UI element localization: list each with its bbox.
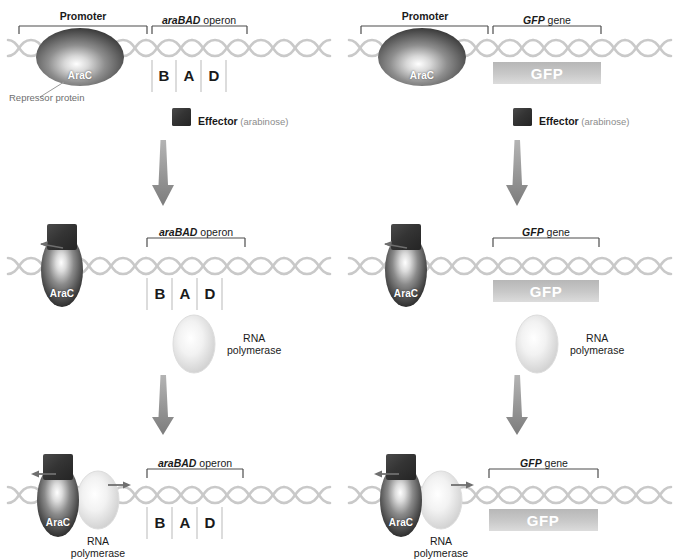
- rna-polymerase-caption: RNA polymerase: [570, 332, 624, 357]
- gene-letter-D: D: [205, 515, 216, 530]
- rna-polymerase-caption: RNA polymerase: [71, 535, 125, 560]
- gene-letter-A: A: [180, 515, 191, 530]
- gfp-bar-label: GFP: [530, 283, 562, 300]
- operon-label-rest: operon: [196, 457, 232, 469]
- rna-polymerase: [173, 315, 215, 373]
- operon-label-rest: operon: [200, 14, 236, 26]
- effector-swatch: [513, 108, 532, 126]
- promoter-label: Promoter: [60, 11, 107, 22]
- operon-label: araBAD operon: [158, 454, 232, 470]
- effector-swatch: [172, 108, 191, 126]
- gene-letter-A: A: [180, 286, 191, 301]
- rnap-caption-line2: polymerase: [570, 344, 624, 356]
- row2-right-graphics: [341, 212, 681, 377]
- operon-label-italic: araBAD: [158, 457, 197, 469]
- row1-right-graphics: [341, 0, 681, 145]
- gene-label-rest: gene: [545, 14, 571, 26]
- rna-polymerase: [516, 315, 558, 373]
- transition-arrows-1: [0, 140, 681, 210]
- panel-left-row3: araBAD operon AraC RNA polymerase B A D: [0, 443, 340, 558]
- promoter-label: Promoter: [402, 11, 449, 22]
- gfp-bar-label: GFP: [527, 512, 559, 529]
- arac-label: AraC: [394, 288, 418, 299]
- bracket-gene-right: [493, 26, 601, 34]
- gene-label-rest: gene: [542, 457, 568, 469]
- bracket-operon-left: [147, 469, 243, 478]
- gene-label-italic: GFP: [523, 14, 545, 26]
- effector-caption-rest: (arabinose): [579, 116, 630, 127]
- panel-right-row1: Promoter GFP gene AraC GFP Effector (ara…: [341, 0, 681, 145]
- rnap-caption-line1: RNA: [227, 332, 281, 344]
- bracket-operon-left: [147, 238, 245, 247]
- arac-label: AraC: [46, 517, 70, 528]
- panel-left-row2: araBAD operon AraC B A D RNA polymerase: [0, 212, 340, 377]
- gene-label-italic: GFP: [520, 457, 542, 469]
- gene-letter-B: B: [155, 286, 166, 301]
- gene-letter-B: B: [159, 68, 170, 83]
- gene-label: GFP gene: [520, 454, 568, 470]
- bracket-operon-left: [152, 26, 247, 34]
- gene-letter-A: A: [184, 68, 195, 83]
- rnap-caption-line2: polymerase: [227, 344, 281, 356]
- rna-polymerase: [77, 471, 131, 529]
- rnap-caption-line1: RNA: [414, 535, 468, 547]
- effector-caption: Effector (arabinose): [539, 112, 629, 128]
- bound-effector-block: [43, 454, 73, 480]
- gene-letter-B: B: [155, 515, 166, 530]
- effector-caption-bold: Effector: [539, 115, 579, 127]
- repressor-protein-caption: Repressor protein: [9, 93, 85, 103]
- rnap-caption-line1: RNA: [570, 332, 624, 344]
- arac-label: AraC: [68, 70, 92, 81]
- gfp-bar-label: GFP: [531, 65, 563, 82]
- operon-label-italic: araBAD: [159, 226, 198, 238]
- operon-label-rest: operon: [197, 226, 233, 238]
- bound-effector-block: [386, 454, 416, 480]
- effector-caption: Effector (arabinose): [198, 112, 288, 128]
- panel-right-row3: GFP gene AraC RNA polymerase GFP: [341, 443, 681, 558]
- down-arrow-left: [152, 140, 174, 206]
- rnap-caption-line1: RNA: [71, 535, 125, 547]
- operon-label-italic: araBAD: [162, 14, 201, 26]
- rnap-caption-line2: polymerase: [414, 547, 468, 559]
- down-arrow-right: [506, 140, 528, 206]
- bracket-gene-right: [493, 238, 599, 247]
- panel-left-row1: Promoter araBAD operon AraC Repressor pr…: [0, 0, 340, 145]
- down-arrow-left: [152, 375, 174, 435]
- rna-polymerase-caption: RNA polymerase: [414, 535, 468, 560]
- gene-letter-D: D: [209, 68, 220, 83]
- bracket-gene-right: [489, 469, 598, 478]
- down-arrow-right: [506, 375, 528, 435]
- transition-arrows-2: [0, 373, 681, 439]
- rna-polymerase-caption: RNA polymerase: [227, 332, 281, 357]
- panel-right-row2: GFP gene AraC GFP RNA polymerase: [341, 212, 681, 377]
- effector-caption-bold: Effector: [198, 115, 238, 127]
- operon-label: araBAD operon: [159, 223, 233, 239]
- rna-polymerase: [420, 471, 474, 529]
- gene-label-rest: gene: [544, 226, 570, 238]
- gene-letter-D: D: [205, 286, 216, 301]
- arac-label: AraC: [410, 70, 434, 81]
- arac-label: AraC: [50, 288, 74, 299]
- gene-label: GFP gene: [522, 223, 570, 239]
- row3-right-graphics: [341, 443, 681, 558]
- arac-label: AraC: [389, 517, 413, 528]
- effector-caption-rest: (arabinose): [238, 116, 289, 127]
- operon-label: araBAD operon: [162, 11, 236, 27]
- gene-label-italic: GFP: [522, 226, 544, 238]
- rnap-caption-line2: polymerase: [71, 547, 125, 559]
- gene-label: GFP gene: [523, 11, 571, 27]
